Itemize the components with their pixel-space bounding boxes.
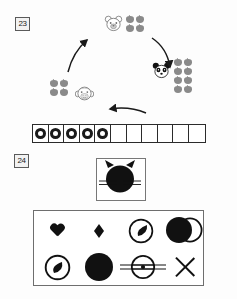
apple-sharing-cycle-diagram (0, 0, 237, 120)
diamond-icon (94, 224, 104, 238)
counting-cell[interactable] (111, 125, 127, 142)
circle-mark (35, 128, 46, 139)
counting-cell[interactable] (158, 125, 174, 142)
x-cross-icon (172, 254, 198, 280)
monkey-face-icon (75, 85, 94, 102)
circle-with-horizontal-lines-icon (120, 253, 166, 281)
apple (184, 58, 192, 66)
apple (174, 85, 182, 93)
counting-cell[interactable] (142, 125, 158, 142)
shape-slot-crossed-circle[interactable] (120, 248, 166, 286)
apple (136, 24, 144, 32)
shape-slot-diamond[interactable] (78, 212, 120, 250)
apple (126, 24, 134, 32)
apple (184, 67, 192, 75)
apple (174, 76, 182, 84)
counting-cell[interactable] (80, 125, 96, 142)
solid-circle-icon (85, 253, 113, 281)
counting-cell[interactable] (49, 125, 65, 142)
circle-mark (50, 128, 61, 139)
counting-cell[interactable] (173, 125, 189, 142)
worksheet-page: 23 (0, 0, 237, 299)
apple (184, 85, 192, 93)
shape-slot-overlapping-circles[interactable] (162, 212, 206, 250)
circle-mark (82, 128, 93, 139)
circle-mark (97, 128, 108, 139)
problem-number-24: 24 (14, 154, 29, 168)
cat-reference-box (96, 158, 146, 201)
shape-slot-circle-with-leaf[interactable] (120, 212, 162, 250)
apple (136, 15, 144, 23)
shape-slot-heart[interactable] (36, 212, 78, 250)
counting-cell[interactable] (127, 125, 143, 142)
shape-slot-ring-with-teardrop[interactable] (36, 248, 78, 286)
arrow-right-to-left (104, 104, 148, 118)
apple-group-top (126, 15, 144, 32)
circle-mark (66, 128, 77, 139)
apple (50, 79, 58, 87)
counting-cell[interactable] (95, 125, 111, 142)
apple (60, 79, 68, 87)
circle-with-leaf-icon (128, 218, 154, 244)
arrow-top-to-right (148, 34, 182, 76)
shape-slot-solid-circle[interactable] (78, 248, 120, 286)
arrow-left-to-top (62, 33, 96, 75)
counting-cell[interactable] (64, 125, 80, 142)
shape-answer-panel (33, 210, 204, 286)
apple (50, 88, 58, 96)
cat-silhouette-icon (97, 159, 143, 198)
ring-with-teardrop-icon (44, 254, 71, 281)
bear-face-icon (104, 15, 123, 32)
apple (184, 76, 192, 84)
apple-group-left (50, 79, 68, 96)
apple (126, 15, 134, 23)
apple (60, 88, 68, 96)
overlapping-circle-and-ring-icon (164, 216, 204, 246)
heart-icon (50, 224, 65, 238)
counting-strip[interactable] (32, 124, 206, 143)
counting-cell[interactable] (33, 125, 49, 142)
counting-cell[interactable] (189, 125, 205, 142)
shape-slot-x-mark[interactable] (164, 248, 206, 286)
